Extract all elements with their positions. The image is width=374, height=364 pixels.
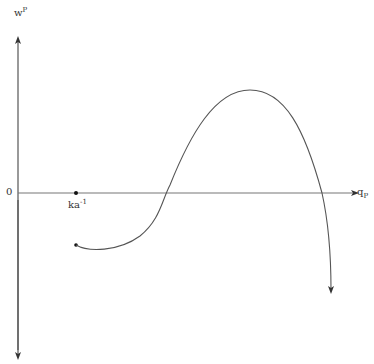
curve: [76, 90, 331, 290]
marker-label: ka-1: [68, 198, 87, 210]
x-axis-label: qP: [357, 186, 368, 200]
y-axis-label: wP: [14, 6, 27, 18]
diagram-canvas: [0, 0, 374, 364]
ka-inverse-point: [74, 191, 78, 195]
origin-label: 0: [6, 186, 12, 197]
